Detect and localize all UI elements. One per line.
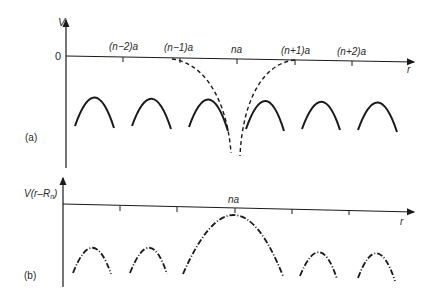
panel-b-label: (b) <box>24 270 36 281</box>
tick-label-n-plus-2: (n+2)a <box>337 46 367 57</box>
panel-b-y-label: V(r–Rn) <box>24 188 57 200</box>
panel-b-center-tick-label: na <box>228 194 240 205</box>
panel-b-dashdot-arcs <box>73 215 395 281</box>
panel-a-solid-arcs <box>75 97 397 132</box>
panel-a-dashed-well <box>172 59 295 156</box>
panel-a-ticks <box>123 57 352 66</box>
panel-b: V(r–Rn) na r (b) <box>24 178 414 287</box>
tick-label-n-plus-1: (n+1)a <box>281 45 311 56</box>
panel-a-zero-label: 0 <box>55 50 61 62</box>
diagram-figure: V 0 r (n−2)a (n−1)a na (n+1)a (n+2)a (a) <box>0 0 440 303</box>
tick-label-n: na <box>231 44 243 55</box>
tick-label-n-minus-2: (n−2)a <box>109 41 139 52</box>
panel-a-r-label: r <box>407 64 411 75</box>
diagram-canvas: V 0 r (n−2)a (n−1)a na (n+1)a (n+2)a (a) <box>0 0 440 303</box>
tick-label-n-minus-1: (n−1)a <box>164 42 194 53</box>
panel-a-label: (a) <box>25 132 37 143</box>
panel-a: V 0 r (n−2)a (n−1)a na (n+1)a (n+2)a (a) <box>25 16 414 168</box>
panel-b-x-axis <box>63 204 414 212</box>
panel-b-r-label: r <box>400 216 404 227</box>
